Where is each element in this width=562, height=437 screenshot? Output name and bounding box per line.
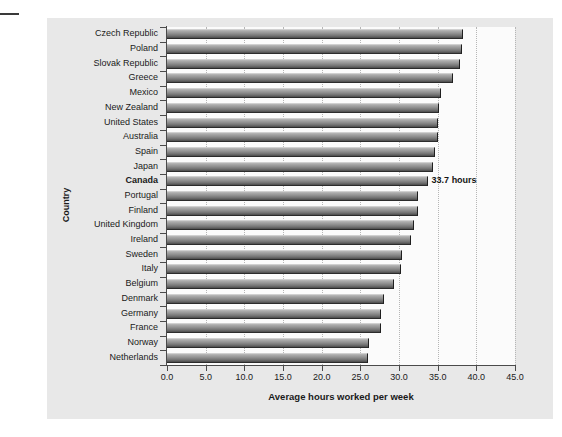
category-label-new-zealand: New Zealand — [38, 102, 158, 112]
category-label-australia: Australia — [38, 131, 158, 141]
bar-denmark[interactable] — [167, 294, 384, 304]
x-tick-label-5: 5.0 — [186, 372, 226, 382]
y-tick — [160, 115, 167, 116]
x-tick-label-35: 35.0 — [418, 372, 458, 382]
category-label-sweden: Sweden — [38, 249, 158, 259]
bar-ireland[interactable] — [167, 235, 411, 245]
bar-united-states[interactable] — [167, 118, 438, 128]
x-tick-40 — [476, 366, 477, 371]
category-label-mexico: Mexico — [38, 87, 158, 97]
bar-czech-republic[interactable] — [167, 29, 463, 39]
y-tick — [160, 292, 167, 293]
y-tick — [160, 218, 167, 219]
x-tick-label-20: 20.0 — [302, 372, 342, 382]
y-tick — [160, 100, 167, 101]
x-tick-15 — [283, 366, 284, 371]
y-tick — [160, 365, 167, 366]
category-label-denmark: Denmark — [38, 293, 158, 303]
gridline-40 — [476, 27, 477, 365]
y-tick — [160, 203, 167, 204]
category-label-canada: Canada — [38, 175, 158, 185]
category-label-italy: Italy — [38, 263, 158, 273]
bar-france[interactable] — [167, 323, 381, 333]
y-tick — [160, 262, 167, 263]
category-label-france: France — [38, 322, 158, 332]
category-label-japan: Japan — [38, 161, 158, 171]
bar-united-kingdom[interactable] — [167, 220, 414, 230]
category-label-poland: Poland — [38, 43, 158, 53]
x-tick-20 — [322, 366, 323, 371]
y-tick — [160, 321, 167, 322]
bar-spain[interactable] — [167, 147, 435, 157]
y-tick — [160, 130, 167, 131]
category-label-netherlands: Netherlands — [38, 352, 158, 362]
x-tick-5 — [206, 366, 207, 371]
y-tick — [160, 86, 167, 87]
category-label-united-states: United States — [38, 117, 158, 127]
x-tick-label-45: 45.0 — [495, 372, 535, 382]
y-tick — [160, 56, 167, 57]
bar-greece[interactable] — [167, 73, 453, 83]
y-tick — [160, 145, 167, 146]
y-tick — [160, 159, 167, 160]
y-tick — [160, 306, 167, 307]
x-tick-label-40: 40.0 — [456, 372, 496, 382]
y-tick — [160, 27, 167, 28]
bar-new-zealand[interactable] — [167, 103, 439, 113]
x-tick-0 — [167, 366, 168, 371]
category-label-greece: Greece — [38, 72, 158, 82]
y-tick — [160, 247, 167, 248]
bar-mexico[interactable] — [167, 88, 441, 98]
bar-belgium[interactable] — [167, 279, 394, 289]
bar-finland[interactable] — [167, 206, 418, 216]
bar-canada[interactable] — [167, 176, 428, 186]
category-label-germany: Germany — [38, 308, 158, 318]
y-tick — [160, 336, 167, 337]
bar-portugal[interactable] — [167, 191, 418, 201]
x-tick-label-30: 30.0 — [379, 372, 419, 382]
top-left-rule — [0, 13, 19, 15]
bar-germany[interactable] — [167, 309, 381, 319]
bar-australia[interactable] — [167, 132, 438, 142]
bar-sweden[interactable] — [167, 250, 402, 260]
x-tick-10 — [244, 366, 245, 371]
category-label-spain: Spain — [38, 146, 158, 156]
bar-japan[interactable] — [167, 162, 433, 172]
x-tick-label-25: 25.0 — [340, 372, 380, 382]
category-label-portugal: Portugal — [38, 190, 158, 200]
gridline-45 — [515, 27, 516, 365]
y-tick — [160, 233, 167, 234]
y-tick — [160, 42, 167, 43]
category-label-belgium: Belgium — [38, 278, 158, 288]
category-label-norway: Norway — [38, 337, 158, 347]
value-annotation: 33.7 hours — [432, 175, 477, 185]
y-tick — [160, 277, 167, 278]
x-axis-line — [166, 365, 516, 366]
y-tick — [160, 71, 167, 72]
x-tick-label-10: 10.0 — [224, 372, 264, 382]
x-tick-25 — [360, 366, 361, 371]
category-label-united-kingdom: United Kingdom — [38, 219, 158, 229]
y-tick — [160, 189, 167, 190]
bar-poland[interactable] — [167, 44, 462, 54]
bar-italy[interactable] — [167, 264, 401, 274]
bar-netherlands[interactable] — [167, 353, 368, 363]
x-axis-title: Average hours worked per week — [167, 391, 515, 402]
y-tick — [160, 350, 167, 351]
x-tick-45 — [515, 366, 516, 371]
category-label-ireland: Ireland — [38, 234, 158, 244]
x-tick-label-15: 15.0 — [263, 372, 303, 382]
bar-norway[interactable] — [167, 338, 369, 348]
y-tick — [160, 174, 167, 175]
category-label-czech-republic: Czech Republic — [38, 28, 158, 38]
x-tick-35 — [438, 366, 439, 371]
x-tick-label-0: 0.0 — [147, 372, 187, 382]
category-label-slovak-republic: Slovak Republic — [38, 58, 158, 68]
bar-slovak-republic[interactable] — [167, 59, 460, 69]
x-tick-30 — [399, 366, 400, 371]
category-label-finland: Finland — [38, 205, 158, 215]
